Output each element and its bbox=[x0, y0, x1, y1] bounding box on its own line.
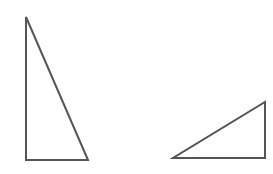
diagram-canvas bbox=[0, 0, 273, 174]
tall-right-triangle bbox=[26, 17, 88, 160]
wide-right-triangle bbox=[173, 102, 265, 158]
